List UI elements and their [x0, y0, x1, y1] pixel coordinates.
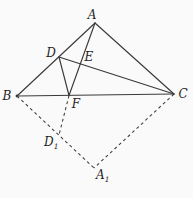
- segment-D-F: [59, 57, 69, 96]
- segment-B-C: [17, 94, 174, 96]
- label-A: A: [87, 8, 97, 22]
- diagram-canvas: ABCDEFD1A1: [0, 0, 193, 198]
- dashed-segment-F-D1: [59, 96, 69, 136]
- geometry-svg: ABCDEFD1A1: [0, 0, 193, 198]
- segment-C-A: [95, 23, 174, 94]
- label-E: E: [84, 50, 94, 64]
- label-A1: A1: [95, 168, 109, 184]
- label-B: B: [2, 89, 12, 103]
- label-D1: D1: [43, 135, 58, 151]
- vertex-dot-B: [16, 95, 19, 98]
- label-D: D: [45, 46, 56, 60]
- dashed-segment-C-A1: [94, 94, 174, 168]
- label-C: C: [178, 87, 187, 101]
- segment-A-B: [17, 23, 95, 96]
- dashed-segment-B-A1: [17, 96, 94, 168]
- label-F: F: [71, 97, 81, 111]
